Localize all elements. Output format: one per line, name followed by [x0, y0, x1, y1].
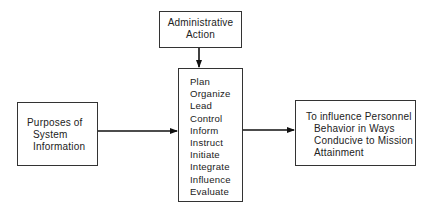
- function-item: Evaluate: [190, 186, 242, 198]
- right-box-line: To influence Personnel: [306, 111, 415, 123]
- function-item: Control: [190, 113, 242, 125]
- purposes-box: Purposes of System Information: [17, 102, 98, 166]
- function-item: Initiate: [190, 149, 242, 161]
- function-item: Inform: [190, 125, 242, 137]
- right-box-line: Attainment: [306, 147, 415, 159]
- outcome-box: To influence Personnel Behavior in Ways …: [295, 100, 416, 166]
- function-item: Organize: [190, 88, 242, 100]
- top-box-line: Action: [160, 29, 241, 41]
- function-item: Instruct: [190, 137, 242, 149]
- function-item: Plan: [190, 76, 242, 88]
- top-box-line: Administrative: [160, 17, 241, 29]
- functions-box: Plan Organize Lead Control Inform Instru…: [178, 68, 243, 202]
- function-item: Lead: [190, 100, 242, 112]
- left-box-line: Information: [27, 141, 97, 153]
- right-box-line: Behavior in Ways: [306, 123, 415, 135]
- left-box-line: System: [27, 129, 97, 141]
- function-item: Influence: [190, 174, 242, 186]
- function-item: Integrate: [190, 161, 242, 173]
- left-box-line: Purposes of: [27, 117, 97, 129]
- administrative-action-box: Administrative Action: [159, 11, 242, 48]
- right-box-line: Conducive to Mission: [306, 135, 415, 147]
